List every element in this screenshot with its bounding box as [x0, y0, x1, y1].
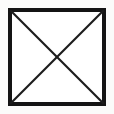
- square-with-diagonals-figure: [0, 0, 114, 114]
- figure-canvas: [0, 0, 114, 114]
